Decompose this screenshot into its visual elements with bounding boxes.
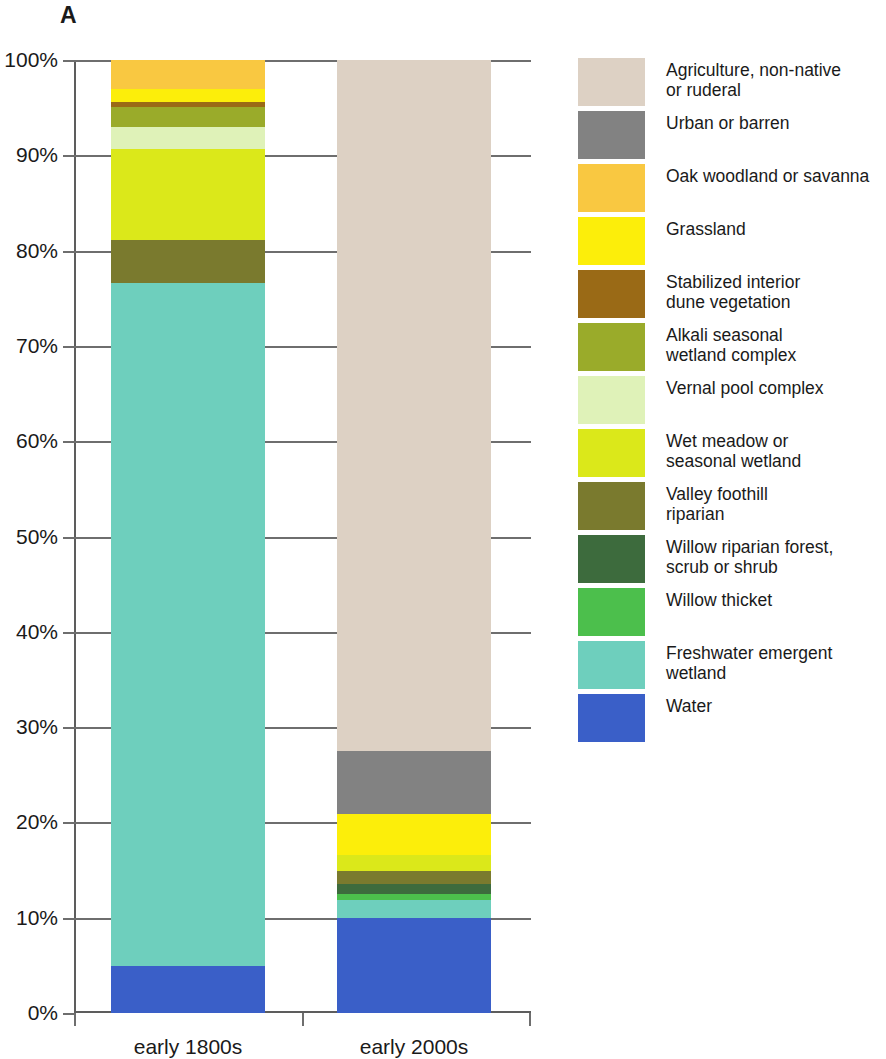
legend-item-label: Oak woodland or savanna xyxy=(666,164,869,186)
bar-segment[interactable] xyxy=(337,884,491,894)
y-axis-tick xyxy=(63,632,74,634)
y-axis-tick xyxy=(63,251,74,253)
legend-item[interactable]: Valley foothill riparian xyxy=(578,482,883,530)
bar-segment[interactable] xyxy=(337,60,491,751)
legend-item-label: Water xyxy=(666,694,712,716)
legend-item[interactable]: Willow riparian forest, scrub or shrub xyxy=(578,535,883,583)
y-axis-tick xyxy=(63,1013,74,1015)
y-axis-tick-label: 100% xyxy=(4,48,58,72)
legend-item-label: Alkali seasonal wetland complex xyxy=(666,323,796,366)
bar-segment[interactable] xyxy=(337,814,491,855)
stacked-bar[interactable] xyxy=(111,60,265,1013)
y-axis-tick-label: 20% xyxy=(16,810,58,834)
legend-color-swatch xyxy=(578,482,645,530)
y-axis-tick xyxy=(63,822,74,824)
y-axis-tick xyxy=(63,918,74,920)
legend-item[interactable]: Freshwater emergent wetland xyxy=(578,641,883,689)
legend-item[interactable]: Alkali seasonal wetland complex xyxy=(578,323,883,371)
legend-item[interactable]: Water xyxy=(578,694,883,742)
y-axis-tick-label: 90% xyxy=(16,143,58,167)
legend-color-swatch xyxy=(578,323,645,371)
y-axis-tick-label: 70% xyxy=(16,334,58,358)
y-axis-tick xyxy=(63,346,74,348)
y-axis-tick xyxy=(63,727,74,729)
legend-item-label: Agriculture, non-native or ruderal xyxy=(666,58,841,101)
x-axis-category-label: early 2000s xyxy=(360,1035,469,1059)
legend-item[interactable]: Agriculture, non-native or ruderal xyxy=(578,58,883,106)
bar-segment[interactable] xyxy=(337,900,491,918)
bar-segment[interactable] xyxy=(111,149,265,240)
bar-segment[interactable] xyxy=(337,751,491,814)
y-axis-tick-label: 40% xyxy=(16,620,58,644)
legend-item[interactable]: Willow thicket xyxy=(578,588,883,636)
legend-item-label: Wet meadow or seasonal wetland xyxy=(666,429,801,472)
legend-color-swatch xyxy=(578,270,645,318)
legend-color-swatch xyxy=(578,535,645,583)
y-axis-tick-label: 0% xyxy=(28,1001,58,1025)
bar-segment[interactable] xyxy=(337,855,491,871)
legend-color-swatch xyxy=(578,217,645,265)
legend-item[interactable]: Oak woodland or savanna xyxy=(578,164,883,212)
x-axis-category-label: early 1800s xyxy=(134,1035,243,1059)
legend-color-swatch xyxy=(578,164,645,212)
legend-color-swatch xyxy=(578,376,645,424)
legend-item-label: Urban or barren xyxy=(666,111,790,133)
bar-segment[interactable] xyxy=(111,240,265,283)
bar-segment[interactable] xyxy=(111,966,265,1013)
x-axis-tick xyxy=(74,1013,76,1026)
legend-item[interactable]: Vernal pool complex xyxy=(578,376,883,424)
legend-color-swatch xyxy=(578,58,645,106)
y-axis-tick-label: 10% xyxy=(16,906,58,930)
legend-item-label: Valley foothill riparian xyxy=(666,482,768,525)
bar-segment[interactable] xyxy=(111,283,265,966)
legend-color-swatch xyxy=(578,694,645,742)
x-axis-tick xyxy=(302,1013,304,1026)
bar-segment[interactable] xyxy=(337,871,491,884)
y-axis-tick xyxy=(63,155,74,157)
bar-segment[interactable] xyxy=(111,89,265,102)
y-axis-tick xyxy=(63,441,74,443)
y-axis-tick-label: 60% xyxy=(16,429,58,453)
legend-item-label: Stabilized interior dune vegetation xyxy=(666,270,800,313)
legend-item-label: Willow riparian forest, scrub or shrub xyxy=(666,535,833,578)
y-axis-tick-label: 50% xyxy=(16,525,58,549)
legend-color-swatch xyxy=(578,111,645,159)
legend-item-label: Freshwater emergent wetland xyxy=(666,641,832,684)
legend-item-label: Grassland xyxy=(666,217,746,239)
legend-color-swatch xyxy=(578,429,645,477)
chart-legend: Agriculture, non-native or ruderalUrban … xyxy=(578,58,883,747)
legend-item[interactable]: Grassland xyxy=(578,217,883,265)
y-axis-tick xyxy=(63,537,74,539)
legend-item[interactable]: Wet meadow or seasonal wetland xyxy=(578,429,883,477)
legend-item-label: Willow thicket xyxy=(666,588,772,610)
panel-letter: A xyxy=(60,4,77,27)
stacked-bar[interactable] xyxy=(337,60,491,1013)
y-axis-tick xyxy=(63,60,74,62)
y-axis-tick-label: 80% xyxy=(16,239,58,263)
y-axis-tick-label: 30% xyxy=(16,715,58,739)
bar-segment[interactable] xyxy=(337,918,491,1013)
legend-color-swatch xyxy=(578,588,645,636)
legend-item-label: Vernal pool complex xyxy=(666,376,824,398)
bar-segment[interactable] xyxy=(111,107,265,127)
legend-color-swatch xyxy=(578,641,645,689)
bar-segment[interactable] xyxy=(111,127,265,149)
bar-segment[interactable] xyxy=(111,60,265,89)
x-axis-tick xyxy=(529,1013,531,1026)
legend-item[interactable]: Stabilized interior dune vegetation xyxy=(578,270,883,318)
legend-item[interactable]: Urban or barren xyxy=(578,111,883,159)
plot-area: 0%10%20%30%40%50%60%70%80%90%100% early … xyxy=(74,60,531,1013)
